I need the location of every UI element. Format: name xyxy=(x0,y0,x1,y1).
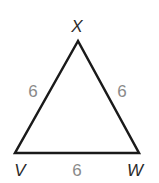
side-label-xw: 6 xyxy=(117,82,126,101)
vertex-label-w: W xyxy=(127,161,145,180)
triangle-diagram: X V W 6 6 6 xyxy=(0,0,159,183)
vertex-label-v: V xyxy=(14,161,27,180)
side-label-vw: 6 xyxy=(72,161,81,180)
vertex-label-x: X xyxy=(70,17,83,36)
side-label-xv: 6 xyxy=(28,82,37,101)
